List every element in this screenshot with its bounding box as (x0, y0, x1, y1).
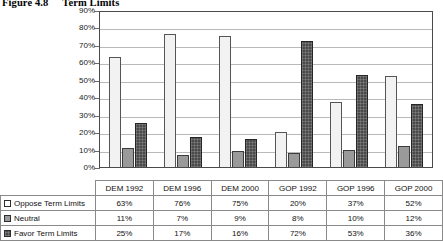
table-cell-value: 75% (211, 196, 269, 211)
bar[interactable] (245, 139, 257, 167)
table-header: DEM 1992DEM 1996DEM 2000GOP 1992GOP 1996… (1, 181, 443, 196)
bar[interactable] (164, 34, 176, 167)
bar-group (100, 12, 155, 167)
legend-item: Favor Term Limits (1, 226, 96, 241)
bar-group (211, 12, 266, 167)
y-axis-tick-label: 10% (55, 147, 95, 155)
table-column-header: GOP 2000 (385, 181, 443, 196)
table-corner-cell (1, 181, 96, 196)
bar-group (321, 12, 376, 167)
bar-groups (100, 12, 432, 167)
bar[interactable] (109, 57, 121, 167)
bar[interactable] (219, 36, 231, 167)
figure-number: Figure 4.8 (2, 0, 48, 8)
legend-swatch-icon (4, 200, 11, 207)
table-cell-value: 10% (327, 211, 385, 226)
table-cell-value: 63% (96, 196, 154, 211)
bar[interactable] (330, 102, 342, 167)
table-body: Oppose Term Limits63%76%75%20%37%52%Neut… (1, 196, 443, 241)
table-cell-value: 37% (327, 196, 385, 211)
bar[interactable] (275, 132, 287, 167)
bar[interactable] (232, 151, 244, 167)
table-cell-value: 7% (153, 211, 211, 226)
bar-group (155, 12, 210, 167)
bar-group (266, 12, 321, 167)
y-axis-tick-label: 90% (55, 7, 95, 15)
data-table: DEM 1992DEM 1996DEM 2000GOP 1992GOP 1996… (0, 180, 443, 241)
table-column-header: DEM 1992 (96, 181, 154, 196)
bar[interactable] (398, 146, 410, 167)
y-axis-tick-labels: 90%80%70%60%50%40%30%20%10%0% (55, 8, 97, 168)
legend-swatch-icon (4, 230, 11, 237)
legend-label: Oppose Term Limits (14, 199, 85, 208)
table-cell-value: 8% (269, 211, 327, 226)
y-axis-tick-label: 40% (55, 94, 95, 102)
table-cell-value: 52% (385, 196, 443, 211)
legend-item: Neutral (1, 211, 96, 226)
bar[interactable] (301, 41, 313, 167)
table-cell-value: 53% (327, 226, 385, 241)
legend-label: Favor Term Limits (14, 229, 77, 238)
y-axis-tick-label: 30% (55, 112, 95, 120)
bar[interactable] (385, 76, 397, 167)
y-axis-tick-label: 70% (55, 42, 95, 50)
plot-area (99, 11, 433, 168)
table-cell-value: 9% (211, 211, 269, 226)
figure-page: Figure 4.8Term Limits 90%80%70%60%50%40%… (0, 0, 443, 242)
y-axis-tick-label: 50% (55, 77, 95, 85)
bar[interactable] (411, 104, 423, 167)
bar-group (377, 12, 432, 167)
bar[interactable] (356, 75, 368, 167)
table-cell-value: 72% (269, 226, 327, 241)
bar-chart: 90%80%70%60%50%40%30%20%10%0% (0, 8, 443, 180)
table-cell-value: 12% (385, 211, 443, 226)
legend-swatch-icon (4, 215, 11, 222)
legend-label: Neutral (14, 214, 40, 223)
bar[interactable] (122, 148, 134, 167)
table-column-header: DEM 2000 (211, 181, 269, 196)
table-column-header: GOP 1992 (269, 181, 327, 196)
y-axis-tick-label: 60% (55, 59, 95, 67)
table-cell-value: 16% (211, 226, 269, 241)
legend-item: Oppose Term Limits (1, 196, 96, 211)
table-row: Neutral11%7%9%8%10%12% (1, 211, 443, 226)
bar[interactable] (343, 150, 355, 167)
table-cell-value: 20% (269, 196, 327, 211)
bar[interactable] (177, 155, 189, 167)
bar[interactable] (135, 123, 147, 167)
bar[interactable] (190, 137, 202, 167)
y-axis-tick-label: 0% (55, 164, 95, 172)
bar[interactable] (288, 153, 300, 167)
table-header-row: DEM 1992DEM 1996DEM 2000GOP 1992GOP 1996… (1, 181, 443, 196)
table-cell-value: 76% (153, 196, 211, 211)
y-axis-tick-label: 20% (55, 129, 95, 137)
table-row: Favor Term Limits25%17%16%72%53%36% (1, 226, 443, 241)
table-cell-value: 36% (385, 226, 443, 241)
table-cell-value: 11% (96, 211, 154, 226)
table-column-header: GOP 1996 (327, 181, 385, 196)
table-column-header: DEM 1996 (153, 181, 211, 196)
y-axis-tick-mark (94, 168, 100, 169)
y-axis-tick-label: 80% (55, 24, 95, 32)
table-cell-value: 25% (96, 226, 154, 241)
table-cell-value: 17% (153, 226, 211, 241)
table-row: Oppose Term Limits63%76%75%20%37%52% (1, 196, 443, 211)
